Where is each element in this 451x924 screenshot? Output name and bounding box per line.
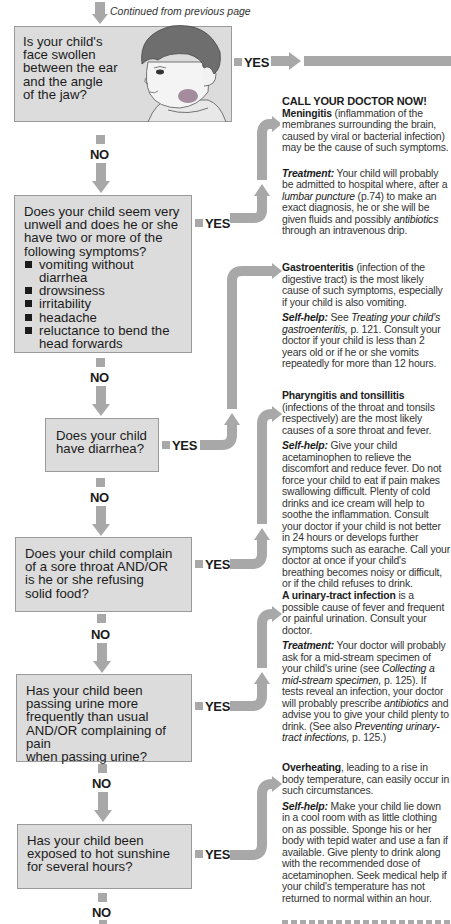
yes-connector-stub [162,441,170,449]
yes-label: YES [172,438,197,453]
down-arrow [92,506,109,536]
treatment-label: Treatment: [282,640,334,651]
down-arrow [92,386,109,416]
question-text: Has your child been passing urine more f… [26,684,191,763]
no-connector-stub [96,478,105,487]
down-arrow-partial [99,920,107,924]
no-connector-stub [98,764,107,773]
self-help-label: Self-help: [282,440,328,451]
condition-name: Meningitis [282,108,332,119]
yes-label: YES [205,699,230,714]
no-connector-stub [98,893,107,902]
no-label: NO [91,627,110,642]
yes-label: YES [244,55,269,70]
no-connector-stub [97,614,106,623]
down-arrow [92,163,109,193]
question-text: Is your child's face swollen between the… [23,35,118,101]
question-text: Does your child complain of a sore throa… [25,547,172,600]
down-arrow [93,643,110,673]
question-text: Does your child have diarrhea? [56,429,147,455]
yes-arrow-up-right [230,602,282,714]
yes-label: YES [205,216,230,231]
yes-arrow-up-right [230,110,280,232]
answer-pharyngitis: Pharyngitis and tonsillitis(infections o… [282,390,450,594]
self-help-label: Self-help: [282,801,328,812]
yes-connector-stub [234,58,242,66]
cross-reference-link: antibiotics [394,214,439,225]
symptom-item: vomiting withoutdiarrhea [24,258,179,284]
self-help-label: Self-help: [282,312,328,323]
yes-connector-stub [195,702,203,710]
down-arrow [94,792,111,822]
cross-reference-link[interactable]: lumbar puncture [282,191,355,202]
no-label: NO [90,147,109,162]
cross-reference-link: antibiotics [384,698,429,709]
truncated-next-answer [282,920,450,924]
no-connector-stub [96,358,105,367]
yes-label: YES [205,847,230,862]
answer-meningitis: CALL YOUR DOCTOR NOW! Meningitis (inflam… [282,96,450,241]
question-box-unwell-symptoms: Does your child seem very unwell and doe… [14,195,192,353]
yes-connector-stub [195,219,203,227]
no-label: NO [92,905,111,920]
yes-connector-stub [195,560,203,568]
symptom-item: headache [24,311,179,324]
no-label: NO [90,370,109,385]
child-illustration [128,22,238,122]
continued-arrow [92,2,108,24]
question-text: Does your child seem very unwell and doe… [24,205,179,350]
question-box-sore-throat: Does your child complain of a sore throa… [15,537,192,612]
answer-urinary-tract-infection: A urinary-tract infection is a possible … [282,590,450,748]
yes-arrow-up-right [230,772,282,862]
symptom-list: vomiting withoutdiarrhea drowsiness irri… [24,258,179,350]
condition-name: Gastroenteritis [282,262,354,273]
no-label: NO [90,490,109,505]
question-text: Has your child been exposed to hot sunsh… [27,834,170,874]
treatment-label: Treatment: [282,168,334,179]
answer-gastroenteritis: Gastroenteritis (infection of the digest… [282,262,450,374]
answer-overheating: Overheating, leading to a rise in body t… [282,762,450,908]
call-doctor-now: CALL YOUR DOCTOR NOW! [282,95,427,107]
symptom-item: irritability [24,297,179,310]
no-label: NO [92,776,111,791]
yes-arrow-right [271,52,451,70]
symptom-item: reluctance to bend thehead forwards [24,324,179,350]
yes-connector-stub [195,850,203,858]
question-box-sunshine: Has your child been exposed to hot sunsh… [17,824,192,889]
question-box-urine: Has your child been passing urine more f… [16,674,192,762]
continued-label: Continued from previous page [110,5,251,17]
condition-name: Pharyngitis and tonsillitis [282,390,404,401]
condition-name: Overheating [282,762,341,773]
no-connector-stub [96,135,105,144]
question-box-diarrhea: Does your child have diarrhea? [45,418,159,472]
condition-name: A urinary-tract infection [282,590,396,601]
yes-arrow-up-right [230,400,282,572]
yes-label: YES [205,557,230,572]
